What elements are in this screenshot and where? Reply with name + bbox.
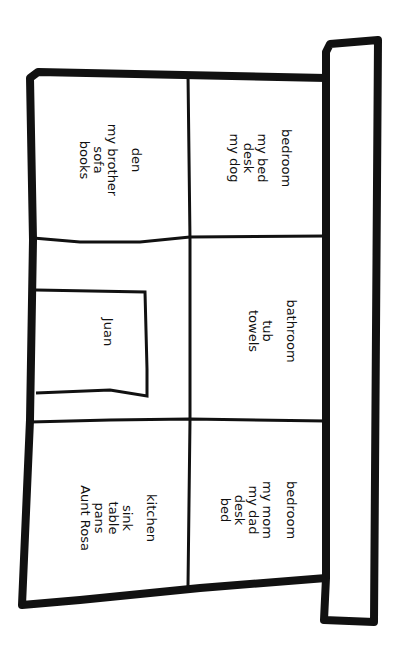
roof (324, 40, 378, 622)
room-bedroom-2: bedroom my mom my dad desk bed (218, 481, 298, 539)
room-item: my dad (246, 481, 260, 539)
wall-lower (30, 419, 326, 422)
room-kitchen: kitchen sink table pans Aunt Rosa (78, 485, 158, 551)
room-item: pans (92, 485, 106, 551)
room-bathroom: bathroom tub towels (246, 299, 298, 362)
juan-box (36, 290, 147, 396)
room-title: bedroom (284, 481, 298, 539)
room-item: sofa (91, 124, 105, 196)
room-item: my mom (260, 481, 274, 539)
room-item: my bed (255, 129, 269, 187)
room-item: tub (260, 299, 274, 362)
room-den: den my brother sofa books (77, 124, 143, 196)
room-item: my brother (105, 124, 119, 196)
room-item: table (106, 485, 120, 551)
room-item: my dog (227, 129, 241, 187)
room-title: kitchen (144, 485, 158, 551)
room-title: bedroom (279, 129, 293, 187)
wall-upper (33, 236, 326, 242)
room-item: desk (241, 129, 255, 187)
room-title: den (129, 124, 143, 196)
room-item: sink (120, 485, 134, 551)
room-item: towels (246, 299, 260, 362)
juan-label: Juan (101, 318, 115, 346)
room-title: bathroom (284, 299, 298, 362)
floor-plan-drawing (0, 0, 408, 648)
room-bedroom-1: bedroom my bed desk my dog (227, 129, 293, 187)
room-item: Aunt Rosa (78, 485, 92, 551)
room-item: desk (232, 481, 246, 539)
room-item: bed (218, 481, 232, 539)
center-wall (188, 74, 190, 586)
room-item: books (77, 124, 91, 196)
